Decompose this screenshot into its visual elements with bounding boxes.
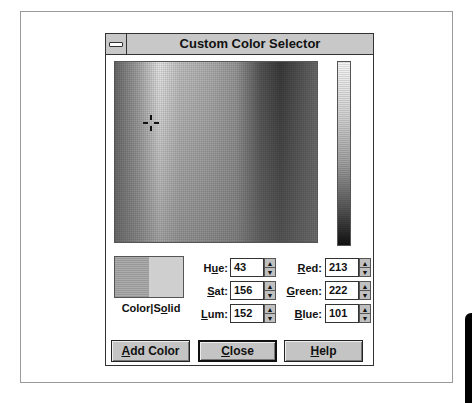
color-solid-swatch [114, 256, 184, 298]
color-preview [115, 257, 149, 297]
spin-up-icon[interactable]: ▲ [265, 259, 275, 267]
spin-up-icon[interactable]: ▲ [265, 305, 275, 313]
green-label: Green: [278, 285, 322, 297]
sat-label: Sat: [194, 285, 228, 297]
page-edge-tab [465, 313, 472, 403]
help-button[interactable]: Help [284, 340, 363, 362]
lum-label: Lum: [194, 308, 228, 320]
color-solid-label[interactable]: Color|Solid [114, 302, 188, 314]
hue-spinner[interactable]: ▲▼ [264, 258, 276, 277]
red-input[interactable]: 213 [325, 258, 359, 277]
spin-down-icon[interactable]: ▼ [265, 290, 275, 299]
crosshair-icon[interactable] [142, 114, 160, 132]
red-spinner[interactable]: ▲▼ [359, 258, 371, 277]
spin-up-icon[interactable]: ▲ [360, 259, 370, 267]
minus-bar-icon [109, 42, 123, 47]
spin-down-icon[interactable]: ▼ [360, 267, 370, 276]
spin-down-icon[interactable]: ▼ [360, 290, 370, 299]
add-color-button[interactable]: Add Color [111, 340, 190, 362]
hue-saturation-spectrum[interactable] [114, 61, 318, 243]
custom-color-selector-dialog: Custom Color Selector Color|Solid Hue: 4… [105, 33, 374, 366]
hue-input[interactable]: 43 [230, 258, 264, 277]
spin-up-icon[interactable]: ▲ [360, 305, 370, 313]
green-input[interactable]: 222 [325, 281, 359, 300]
green-spinner[interactable]: ▲▼ [359, 281, 371, 300]
blue-label: Blue: [282, 308, 322, 320]
spin-down-icon[interactable]: ▼ [265, 267, 275, 276]
spin-down-icon[interactable]: ▼ [265, 313, 275, 322]
title-bar: Custom Color Selector [106, 34, 373, 55]
solid-preview [149, 257, 183, 297]
spin-up-icon[interactable]: ▲ [265, 282, 275, 290]
hue-label: Hue: [194, 262, 228, 274]
spin-down-icon[interactable]: ▼ [360, 313, 370, 322]
luminance-bar[interactable] [337, 61, 351, 246]
blue-input[interactable]: 101 [325, 304, 359, 323]
sat-spinner[interactable]: ▲▼ [264, 281, 276, 300]
sat-input[interactable]: 156 [230, 281, 264, 300]
window-title: Custom Color Selector [127, 34, 373, 54]
close-button[interactable]: Close [198, 340, 277, 362]
spin-up-icon[interactable]: ▲ [360, 282, 370, 290]
red-label: Red: [282, 262, 322, 274]
lum-spinner[interactable]: ▲▼ [264, 304, 276, 323]
system-menu-button[interactable] [106, 34, 127, 54]
lum-input[interactable]: 152 [230, 304, 264, 323]
blue-spinner[interactable]: ▲▼ [359, 304, 371, 323]
